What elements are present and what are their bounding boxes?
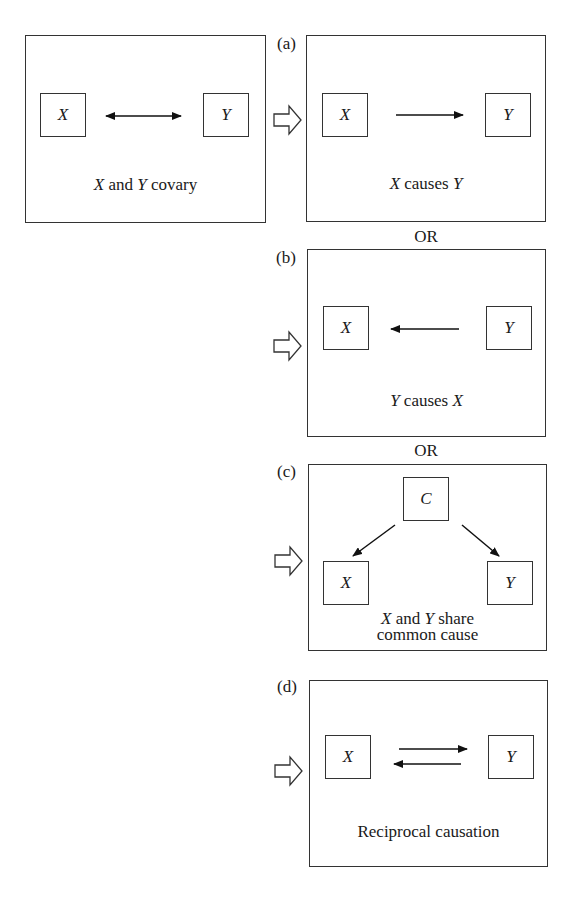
or-connector: OR (396, 441, 456, 461)
premise-caption: X and Y covary (26, 177, 265, 193)
panel-label-d: (d) (277, 677, 297, 697)
panel-d-caption: Reciprocal causation (310, 824, 547, 840)
or-connector: OR (396, 227, 456, 247)
panel-a-caption: X causes Y (307, 176, 545, 192)
panel-label-a: (a) (277, 34, 296, 54)
panel-b: X Y Y causes X (307, 249, 546, 437)
right-arrow-icon (307, 36, 547, 223)
hollow-arrow-icon (274, 545, 304, 577)
panel-a: X Y X causes Y (306, 35, 546, 222)
panel-label-c: (c) (277, 462, 296, 482)
bidirectional-arrow-icon (26, 36, 267, 224)
hollow-arrow-icon (273, 104, 303, 136)
premise-panel: X Y X and Y covary (25, 35, 266, 223)
panel-c: C X Y X and Y share common cause (308, 464, 547, 651)
panel-b-caption: Y causes X (308, 393, 545, 409)
panel-d: X Y Reciprocal causation (309, 680, 548, 867)
hollow-arrow-icon (273, 330, 303, 362)
hollow-arrow-icon (274, 755, 304, 787)
panel-c-caption: X and Y share common cause (309, 611, 546, 643)
panel-label-b: (b) (276, 248, 296, 268)
